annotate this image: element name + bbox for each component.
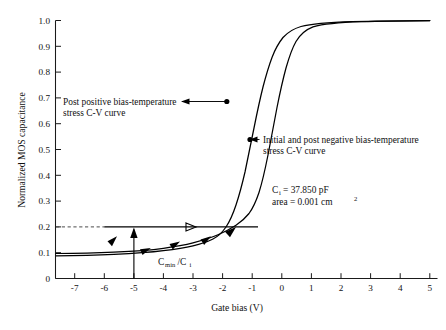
y-tick-label: 0.5 [39, 145, 51, 155]
y-tick-label: 0.9 [39, 42, 51, 52]
x-tick-label: -7 [71, 283, 79, 293]
x-tick-label: -1 [248, 283, 256, 293]
x-tick-label: 0 [280, 283, 285, 293]
area-superscript: 2 [354, 195, 357, 202]
area-base: area = 0.001 cm [272, 197, 333, 207]
x-tick-label: -2 [219, 283, 227, 293]
y-tick-label: 0.7 [39, 93, 51, 103]
y-tick-label: 0 [45, 274, 50, 284]
x-tick-label: 1 [309, 283, 314, 293]
y-tick-label: 1.0 [39, 16, 51, 26]
x-tick-label: -6 [100, 283, 108, 293]
post-positive-anchor-dot [224, 99, 229, 104]
post-positive-label-line2: stress C-V curve [63, 108, 125, 118]
initial-post-negative-label-line1: Initial and post negative bias-temperatu… [263, 135, 419, 145]
y-tick-label: 0.6 [39, 119, 51, 129]
cmin-over-ci-sub-min: min [165, 261, 176, 268]
ci-value-text: = 37.850 pF [283, 185, 329, 195]
chart-canvas: 1.0 0.9 0.8 0.7 0.6 0.5 0.4 0.3 0.2 0.1 … [0, 0, 446, 330]
x-tick-label: 3 [368, 283, 373, 293]
ci-base: C [272, 185, 278, 195]
initial-post-negative-anchor-dot [247, 137, 252, 142]
cmin-over-ci-c: C [158, 257, 164, 267]
cmin-over-ci-separator: /C [178, 257, 187, 267]
y-tick-label: 0.3 [39, 196, 51, 206]
y-tick-label: 0.4 [39, 171, 51, 181]
y-tick-label: 0.2 [39, 222, 51, 232]
y-axis-title: Normalized MOS capacitance [16, 92, 27, 208]
post-positive-label-line1: Post positive bias-temperature [63, 97, 177, 107]
x-axis-title: Gate bias (V) [211, 302, 263, 314]
x-tick-label: -3 [189, 283, 197, 293]
cv-curve-figure: 1.0 0.9 0.8 0.7 0.6 0.5 0.4 0.3 0.2 0.1 … [0, 0, 446, 330]
chart-background [0, 0, 446, 330]
ci-subscript: i [279, 189, 281, 196]
cmin-over-ci-base: C [158, 257, 164, 267]
cmin-over-ci-sub-i: i [190, 261, 192, 268]
x-tick-label: 2 [339, 283, 344, 293]
x-tick-label: -5 [130, 283, 138, 293]
x-tick-label: 5 [428, 283, 433, 293]
y-tick-label: 0.1 [39, 248, 51, 258]
y-tick-label: 0.8 [39, 67, 51, 77]
x-tick-label: 4 [398, 283, 403, 293]
x-tick-label: -4 [160, 283, 168, 293]
initial-post-negative-label-line2: stress C-V curve [263, 146, 325, 156]
